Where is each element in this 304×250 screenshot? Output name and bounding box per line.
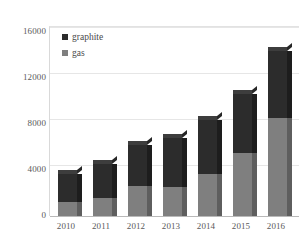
bar-side-face	[217, 120, 222, 174]
axis-baseline	[50, 216, 299, 217]
bar-2012-gas-segment[interactable]	[128, 186, 147, 216]
bar-side-face	[252, 153, 257, 216]
bar-2016-gas-segment[interactable]	[268, 118, 287, 216]
x-tick-label-2010: 2010	[46, 221, 86, 232]
bar-top-cap-icon	[163, 134, 182, 138]
bar-top-cap-icon	[268, 47, 287, 51]
legend-item-gas[interactable]: gas	[62, 46, 103, 59]
bar-side-face	[147, 145, 152, 186]
y-tick-label-8000: 8000	[2, 119, 46, 128]
bar-side-face	[182, 138, 187, 187]
bar-2013-gas-segment[interactable]	[163, 187, 182, 216]
bar-2012-graphite-segment[interactable]	[128, 145, 147, 186]
bar-side-face	[77, 174, 82, 202]
bar-side-face	[112, 198, 117, 216]
legend-label-gas: gas	[72, 48, 85, 58]
bar-2016-graphite-segment[interactable]	[268, 51, 287, 118]
y-axis: 16000 12000 8000 4000 0	[0, 0, 46, 250]
bar-side-face	[217, 174, 222, 216]
bar-2015[interactable]	[229, 26, 263, 216]
bar-chart: 16000 12000 8000 4000 0	[0, 0, 304, 250]
legend-swatch-gas-icon	[62, 50, 68, 56]
legend-item-graphite[interactable]: graphite	[62, 30, 103, 43]
x-tick-label-2014: 2014	[186, 221, 226, 232]
legend-swatch-graphite-icon	[62, 34, 68, 40]
bar-2016[interactable]	[264, 26, 298, 216]
y-tick-label-0: 0	[2, 211, 46, 220]
x-tick-label-2013: 2013	[151, 221, 191, 232]
x-tick-label-2015: 2015	[221, 221, 261, 232]
bar-2013[interactable]	[159, 26, 193, 216]
bar-2013-graphite-segment[interactable]	[163, 138, 182, 187]
bar-top-cap-icon	[58, 170, 77, 174]
bar-2015-graphite-segment[interactable]	[233, 94, 252, 153]
bar-2011-graphite-segment[interactable]	[93, 164, 112, 198]
bar-top-cap-icon	[93, 160, 112, 164]
y-tick-label-12000: 12000	[2, 73, 46, 82]
y-tick-label-4000: 4000	[2, 165, 46, 174]
bar-side-face	[77, 202, 82, 216]
bar-2014-gas-segment[interactable]	[198, 174, 217, 216]
bar-2012[interactable]	[124, 26, 158, 216]
bar-side-face	[147, 186, 152, 216]
x-tick-label-2012: 2012	[116, 221, 156, 232]
bar-2014-graphite-segment[interactable]	[198, 120, 217, 174]
x-tick-label-2011: 2011	[81, 221, 121, 232]
x-tick-label-2016: 2016	[256, 221, 296, 232]
bar-2015-gas-segment[interactable]	[233, 153, 252, 216]
y-tick-label-16000: 16000	[2, 27, 46, 36]
bar-2010-graphite-segment[interactable]	[58, 174, 77, 202]
legend-label-graphite: graphite	[72, 32, 103, 42]
bar-side-face	[182, 187, 187, 216]
bar-top-cap-icon	[198, 116, 217, 120]
bar-side-face	[112, 164, 117, 198]
x-axis: 2010 2011 2012 2013 2014 2015 2016	[49, 221, 299, 241]
bar-top-cap-icon	[128, 141, 147, 145]
bar-top-cap-icon	[233, 90, 252, 94]
bar-side-face	[287, 118, 292, 216]
bar-2014[interactable]	[194, 26, 228, 216]
bar-side-face	[287, 51, 292, 118]
bar-2011-gas-segment[interactable]	[93, 198, 112, 216]
bar-side-face	[252, 94, 257, 153]
bar-2010-gas-segment[interactable]	[58, 202, 77, 216]
legend: graphite gas	[62, 30, 103, 62]
